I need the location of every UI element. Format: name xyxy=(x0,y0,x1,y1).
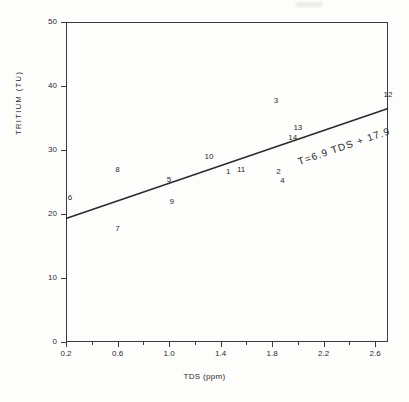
x-axis-minor-tick xyxy=(143,342,144,345)
x-axis-tick-label: 1.4 xyxy=(215,350,226,358)
x-axis-tick xyxy=(375,342,376,347)
y-axis-tick-label: 20 xyxy=(37,210,57,218)
regression-line xyxy=(66,22,388,342)
x-axis-tick-label: 2.2 xyxy=(318,350,329,358)
data-point-label: 5 xyxy=(167,176,171,184)
x-axis-tick-label: 1.8 xyxy=(267,350,278,358)
x-axis-minor-tick xyxy=(298,342,299,345)
data-point-label: 10 xyxy=(205,153,214,161)
x-axis-tick-label: 0.2 xyxy=(60,350,71,358)
x-axis-tick-label: 0.6 xyxy=(112,350,123,358)
y-axis-tick-label: 10 xyxy=(37,274,57,282)
x-axis-title: TDS (ppm) xyxy=(0,372,409,381)
data-point-label: 4 xyxy=(280,177,284,185)
y-axis-title: TRITIUM (TU) xyxy=(14,71,23,135)
data-point-label: 9 xyxy=(169,198,173,206)
data-point-label: 1 xyxy=(226,168,230,176)
x-axis-minor-tick xyxy=(92,342,93,345)
x-axis-minor-tick xyxy=(349,342,350,345)
x-axis-tick xyxy=(324,342,325,347)
data-point-label: 6 xyxy=(68,194,72,202)
y-axis-tick-label: 40 xyxy=(37,82,57,90)
y-axis-tick-label: 30 xyxy=(37,146,57,154)
x-axis-tick-label: 2.6 xyxy=(370,350,381,358)
x-axis-tick xyxy=(118,342,119,347)
x-axis-tick xyxy=(66,342,67,347)
x-axis-minor-tick xyxy=(246,342,247,345)
data-point-label: 3 xyxy=(274,97,278,105)
x-axis-tick xyxy=(272,342,273,347)
data-point-label: 7 xyxy=(115,225,119,233)
x-axis-tick xyxy=(221,342,222,347)
data-point-label: 14 xyxy=(288,134,297,142)
data-point-label: 11 xyxy=(237,166,245,174)
x-axis-tick xyxy=(169,342,170,347)
y-axis-tick-label: 0 xyxy=(37,338,57,346)
x-axis-minor-tick xyxy=(195,342,196,345)
x-axis-tick-label: 1.0 xyxy=(163,350,174,358)
tritium-vs-tds-scatter-figure: TRITIUM (TU) TDS (ppm) 01020304050 0.20.… xyxy=(0,0,409,402)
scan-artifact xyxy=(296,2,322,7)
plot-area: 01020304050 0.20.61.01.41.82.22.6 123456… xyxy=(66,22,388,342)
y-axis-tick-label: 50 xyxy=(37,18,57,26)
data-point-label: 13 xyxy=(293,124,302,132)
data-point-label: 8 xyxy=(115,166,119,174)
data-point-label: 2 xyxy=(276,168,280,176)
data-point-label: 12 xyxy=(384,91,393,99)
